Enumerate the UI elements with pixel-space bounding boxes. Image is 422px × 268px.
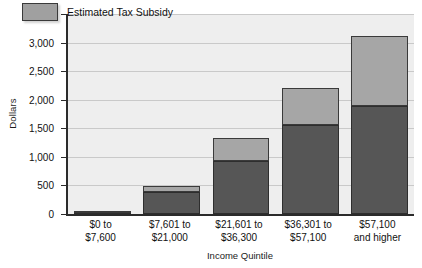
x-axis-tick-label-line: $36,300 — [215, 232, 262, 245]
x-axis-tick-label: $36,301 to$57,100 — [285, 219, 332, 244]
bar-group — [282, 88, 339, 214]
bar-series-layer — [68, 14, 414, 214]
y-axis-tick-label: 2,000 — [29, 94, 54, 105]
bar-group — [143, 186, 200, 214]
legend-label-estimated-tax-subsidy: Estimated Tax Subsidy — [67, 6, 173, 18]
bar-segment-estimated-tax-subsidy — [143, 186, 200, 192]
x-axis-tick-label-line: $21,000 — [149, 232, 191, 245]
plot-area — [66, 14, 414, 216]
bar-segment-base — [351, 106, 408, 214]
x-axis-ticks: $0 to$7,600$7,601 to$21,000$21,601 to$36… — [66, 219, 414, 253]
bar-segment-base — [143, 192, 200, 214]
legend: Estimated Tax Subsidy — [22, 3, 173, 21]
x-axis-tick-label-line: $7,600 — [85, 232, 116, 245]
x-axis-tick-label-line: $57,100 — [285, 232, 332, 245]
y-axis-tick-label: 3,000 — [29, 37, 54, 48]
y-axis-ticks: 05001,0001,5002,0002,5003,0003,500 — [0, 0, 62, 268]
x-axis-tick-label: $21,601 to$36,300 — [215, 219, 262, 244]
bar-chart: Dollars 05001,0001,5002,0002,5003,0003,5… — [0, 0, 422, 268]
y-axis-tick-label: 2,500 — [29, 66, 54, 77]
x-axis-tick-label-line: $7,601 to — [149, 219, 191, 232]
legend-swatch-estimated-tax-subsidy — [22, 3, 58, 21]
bar-group — [213, 138, 270, 214]
x-axis-tick-label-line: $57,100 — [354, 219, 401, 232]
bar-segment-estimated-tax-subsidy — [351, 36, 408, 106]
y-axis-tick-label: 500 — [37, 180, 54, 191]
x-axis-tick-label-line: and higher — [354, 232, 401, 245]
bar-segment-base — [213, 161, 270, 214]
bar-group — [74, 212, 131, 214]
x-axis-tick-label-line: $21,601 to — [215, 219, 262, 232]
bar-segment-estimated-tax-subsidy — [74, 211, 131, 213]
bar-group — [351, 36, 408, 214]
bar-segment-estimated-tax-subsidy — [282, 88, 339, 125]
x-axis-tick-label: $57,100and higher — [354, 219, 401, 244]
y-axis-tick-label: 0 — [48, 209, 54, 220]
x-axis-tick-label: $7,601 to$21,000 — [149, 219, 191, 244]
x-axis-tick-label: $0 to$7,600 — [85, 219, 116, 244]
x-axis-tick-label-line: $36,301 to — [285, 219, 332, 232]
bar-segment-estimated-tax-subsidy — [213, 138, 270, 161]
x-axis-tick-label-line: $0 to — [85, 219, 116, 232]
y-axis-tick-label: 1,000 — [29, 151, 54, 162]
bar-segment-base — [282, 125, 339, 214]
x-axis-title: Income Quintile — [66, 250, 414, 261]
y-axis-tick-label: 1,500 — [29, 123, 54, 134]
